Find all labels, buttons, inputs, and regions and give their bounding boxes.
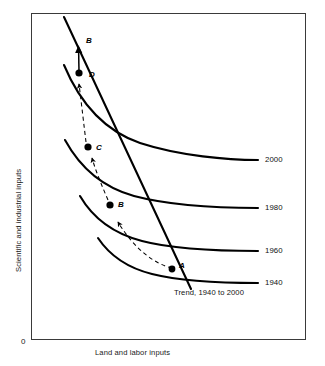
x-axis-title: Land and labor inputs (95, 348, 170, 357)
dash-segment-c-to-d (79, 84, 86, 142)
curve-group (64, 65, 258, 283)
y-axis-title-text: Scientific and industrial inputs (14, 112, 23, 272)
marker-label-C: C (96, 143, 102, 152)
y-axis-title: Scientific and industrial inputs (0, 0, 9, 112)
marker-label-D: D (89, 70, 95, 79)
marker-label-B: B (118, 200, 124, 209)
figure-container: B D C B A 2000 1980 1960 1940 Trend, 194… (0, 0, 325, 366)
marker-group (75, 69, 175, 272)
chart-canvas (0, 0, 325, 366)
series-label-1960: 1960 (265, 246, 283, 255)
marker-B (106, 201, 113, 208)
trend-line (64, 17, 191, 289)
marker-C (84, 143, 91, 150)
series-label-1980: 1980 (265, 203, 283, 212)
trend-line-label: Trend, 1940 to 2000 (174, 288, 244, 297)
marker-label-B-top: B (86, 36, 92, 45)
marker-A (169, 266, 176, 273)
curve-1980 (65, 140, 258, 208)
series-label-2000: 2000 (265, 155, 283, 164)
marker-label-A: A (179, 261, 185, 270)
series-label-1940: 1940 (265, 278, 283, 287)
origin-label: 0 (21, 337, 25, 346)
marker-D (75, 69, 82, 76)
